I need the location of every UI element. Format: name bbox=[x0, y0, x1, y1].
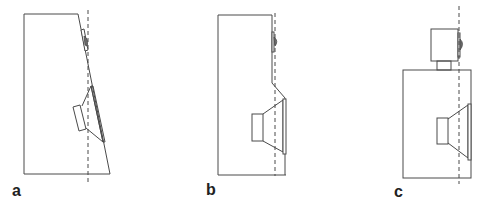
tweeter-neck-c bbox=[437, 61, 451, 70]
tweeter-a bbox=[81, 29, 88, 51]
panel-c bbox=[403, 6, 471, 184]
woofer-c bbox=[437, 104, 471, 160]
panel-b bbox=[218, 13, 286, 176]
tweeter-enclosure-c bbox=[431, 29, 458, 61]
tweeter-b bbox=[272, 32, 277, 52]
panel-a bbox=[24, 10, 110, 184]
woofer-a bbox=[73, 86, 105, 142]
panel-label-b: b bbox=[206, 182, 216, 198]
woofer-b bbox=[252, 99, 286, 154]
loudspeaker-diagram bbox=[0, 0, 493, 206]
panel-label-c: c bbox=[394, 184, 403, 200]
panel-label-a: a bbox=[12, 183, 21, 199]
cabinet-a bbox=[24, 14, 110, 174]
